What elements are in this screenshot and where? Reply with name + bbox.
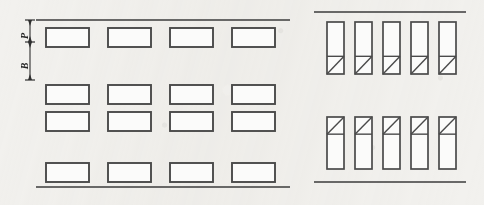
dimension-annotation [25,20,35,80]
vertical-opening-rect-upper-group-c2 [355,22,372,74]
opening-rect-r3-c4 [232,112,275,131]
dimension-label-p: P [20,33,30,39]
right-panel [314,12,466,182]
figure-canvas: PB [0,0,484,205]
opening-rect-r2-c4 [232,85,275,104]
dimension-arrowhead [28,74,32,80]
opening-rect-r4-c3 [170,163,213,182]
vertical-opening-rect-upper-group-c1 [327,22,344,74]
left-panel [36,20,290,187]
dimension-arrowhead [28,42,32,48]
opening-rect-r2-c3 [170,85,213,104]
opening-rect-r3-c2 [108,112,151,131]
opening-rect-r4-c1 [46,163,89,182]
opening-rect-r4-c2 [108,163,151,182]
dimension-arrowhead [28,20,32,26]
opening-rect-r1-c4 [232,28,275,47]
vertical-opening-rect-upper-group-c5 [439,22,456,74]
opening-rect-r3-c1 [46,112,89,131]
vertical-opening-rect-upper-group-c4 [411,22,428,74]
opening-rect-r2-c1 [46,85,89,104]
opening-rect-r2-c2 [108,85,151,104]
opening-rect-r1-c3 [170,28,213,47]
opening-rect-r1-c2 [108,28,151,47]
vertical-opening-rect-upper-group-c3 [383,22,400,74]
dimension-label-b: B [20,63,30,70]
diagram-layer [0,0,484,205]
opening-rect-r4-c4 [232,163,275,182]
opening-rect-r3-c3 [170,112,213,131]
diagram-svg [0,0,484,205]
opening-rect-r1-c1 [46,28,89,47]
